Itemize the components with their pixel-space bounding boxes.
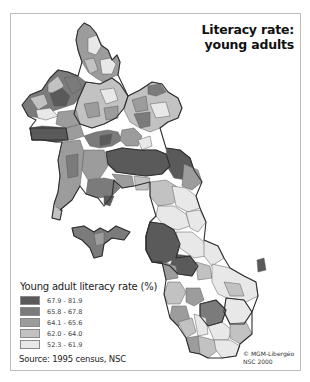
legend-label: 67.9 - 81.9: [47, 297, 82, 305]
credit-line1: © MGM-Libergéo: [243, 350, 294, 358]
legend-swatch: [20, 307, 40, 316]
legend-item: 65.8 - 67.8: [20, 306, 157, 317]
map-title-line1: Literacy rate:: [202, 22, 294, 37]
legend-item: 52.3 - 61.9: [20, 339, 157, 350]
legend-item: 64.1 - 65.6: [20, 317, 157, 328]
credit: © MGM-Libergéo NSC 2000: [243, 350, 294, 366]
legend-title: Young adult literacy rate (%): [20, 281, 157, 292]
credit-line2: NSC 2000: [243, 358, 294, 366]
map-title: Literacy rate: young adults: [202, 22, 294, 52]
legend-swatch: [20, 340, 40, 349]
legend-swatch: [20, 318, 40, 327]
legend-label: 65.8 - 67.8: [47, 308, 82, 316]
map-title-line2: young adults: [202, 37, 294, 52]
legend-swatch: [20, 296, 40, 305]
legend-label: 64.1 - 65.6: [47, 319, 82, 327]
legend-label: 62.0 - 64.0: [47, 330, 82, 338]
legend-swatch: [20, 329, 40, 338]
legend-item: 62.0 - 64.0: [20, 328, 157, 339]
legend-label: 52.3 - 61.9: [47, 341, 82, 349]
legend: Young adult literacy rate (%) 67.9 - 81.…: [20, 281, 157, 350]
legend-item: 67.9 - 81.9: [20, 295, 157, 306]
source-note: Source: 1995 census, NSC: [19, 354, 126, 364]
